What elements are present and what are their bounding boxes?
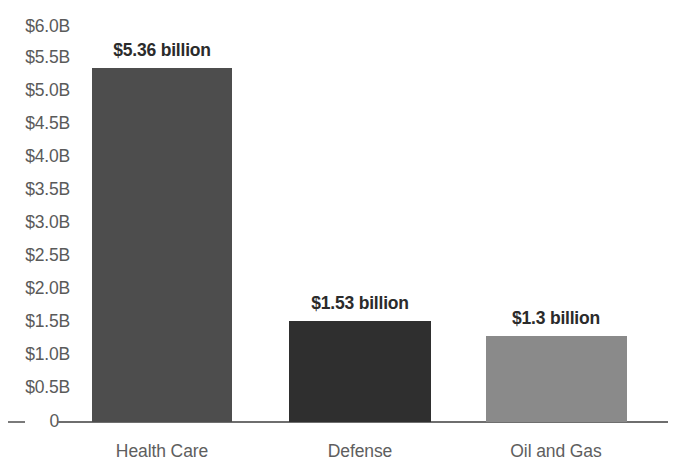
category-label-defense: Defense: [280, 443, 440, 461]
bar-defense[interactable]: [289, 321, 431, 422]
bar-value-health-care: $5.36 billion: [82, 42, 242, 60]
bar-value-defense: $1.53 billion: [280, 295, 440, 313]
bar-chart: $6.0B $5.5B $5.0B $4.5B $4.0B $3.5B $3.0…: [0, 0, 684, 474]
bar-value-oil-and-gas: $1.3 billion: [476, 310, 636, 328]
bar-health-care[interactable]: [92, 68, 232, 422]
category-label-oil-and-gas: Oil and Gas: [476, 443, 636, 461]
plot-area: $5.36 billion Health Care $1.53 billion …: [0, 0, 684, 474]
category-label-health-care: Health Care: [82, 443, 242, 461]
bar-oil-and-gas[interactable]: [486, 336, 627, 422]
